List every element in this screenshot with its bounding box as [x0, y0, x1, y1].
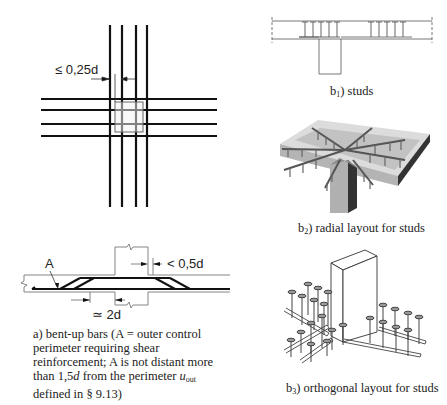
radial-studs-3d	[280, 120, 430, 213]
caption-b2-text: ) radial layout for studs	[308, 221, 425, 235]
caption-b2: b2) radial layout for studs	[298, 221, 425, 239]
caption-b1: b1) studs	[330, 84, 373, 102]
caption-b3: b3) orthogonal layout for studs	[286, 381, 439, 399]
caption-a-u-sub: out	[186, 375, 196, 384]
caption-a: a) bent-up bars (A = outer control perim…	[33, 327, 231, 401]
caption-a-suffix: defined in § 9.13)	[33, 387, 122, 401]
dimension-label-2d: ≃ 2d	[92, 307, 121, 322]
caption-b1-text: ) studs	[340, 84, 373, 98]
caption-b3-text: ) orthogonal layout for studs	[296, 381, 438, 395]
dimension-quarter-d	[91, 74, 135, 102]
orthogonal-studs-3d	[284, 250, 426, 363]
dimension-label-half-d: < 0,5d	[167, 256, 204, 271]
caption-a-middle: from the perimeter	[80, 369, 180, 383]
section-bent-up-bars: A < 0,5d ≃ 2d	[21, 244, 230, 322]
plan-bar-grid: ≤ 0,25d	[41, 25, 217, 207]
label-A: A	[45, 256, 54, 271]
column-outline	[115, 102, 143, 132]
dimension-label-quarter-d: ≤ 0,25d	[55, 62, 98, 77]
studs-section	[272, 17, 432, 74]
